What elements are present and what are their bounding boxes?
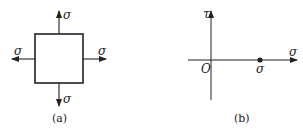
- sigma-label-right: σ: [98, 44, 107, 58]
- diagram-canvas: σ σ σ σ (a) τ σ O σ (b): [0, 0, 303, 135]
- origin-label: O: [201, 62, 211, 76]
- figure: σ σ σ σ (a) τ σ O σ (b): [0, 0, 303, 135]
- sigma-label-bottom: σ: [63, 92, 72, 106]
- sigma-label-left: σ: [14, 44, 23, 58]
- caption-a: (a): [52, 112, 67, 125]
- stress-element-diagram: σ σ σ σ (a): [12, 8, 107, 125]
- sigma-axis-label: σ: [289, 45, 298, 59]
- tau-axis-label: τ: [203, 7, 210, 21]
- mohr-circle-diagram: τ σ O σ (b): [188, 7, 298, 125]
- stress-element-square: [35, 34, 83, 83]
- caption-b: (b): [234, 112, 250, 125]
- point-sigma-label: σ: [256, 62, 265, 76]
- sigma-label-top: σ: [63, 8, 72, 22]
